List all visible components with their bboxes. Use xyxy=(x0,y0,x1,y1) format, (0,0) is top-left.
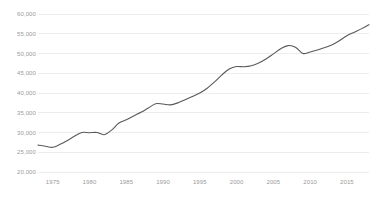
x-tick-label: 2005 xyxy=(267,178,281,186)
x-tick-label: 2010 xyxy=(303,178,317,186)
x-tick-label: 2000 xyxy=(230,178,244,186)
x-tick-label: 1975 xyxy=(46,178,60,186)
x-axis: 197519801985199019952000200520102015 xyxy=(0,0,373,198)
x-tick-label: 1990 xyxy=(156,178,170,186)
x-tick-label: 1985 xyxy=(119,178,133,186)
x-tick-label: 2015 xyxy=(340,178,354,186)
line-chart: 60,00055,00050,00045,00040,00035,00030,0… xyxy=(0,0,373,198)
x-tick-label: 1980 xyxy=(83,178,97,186)
x-tick-label: 1995 xyxy=(193,178,207,186)
